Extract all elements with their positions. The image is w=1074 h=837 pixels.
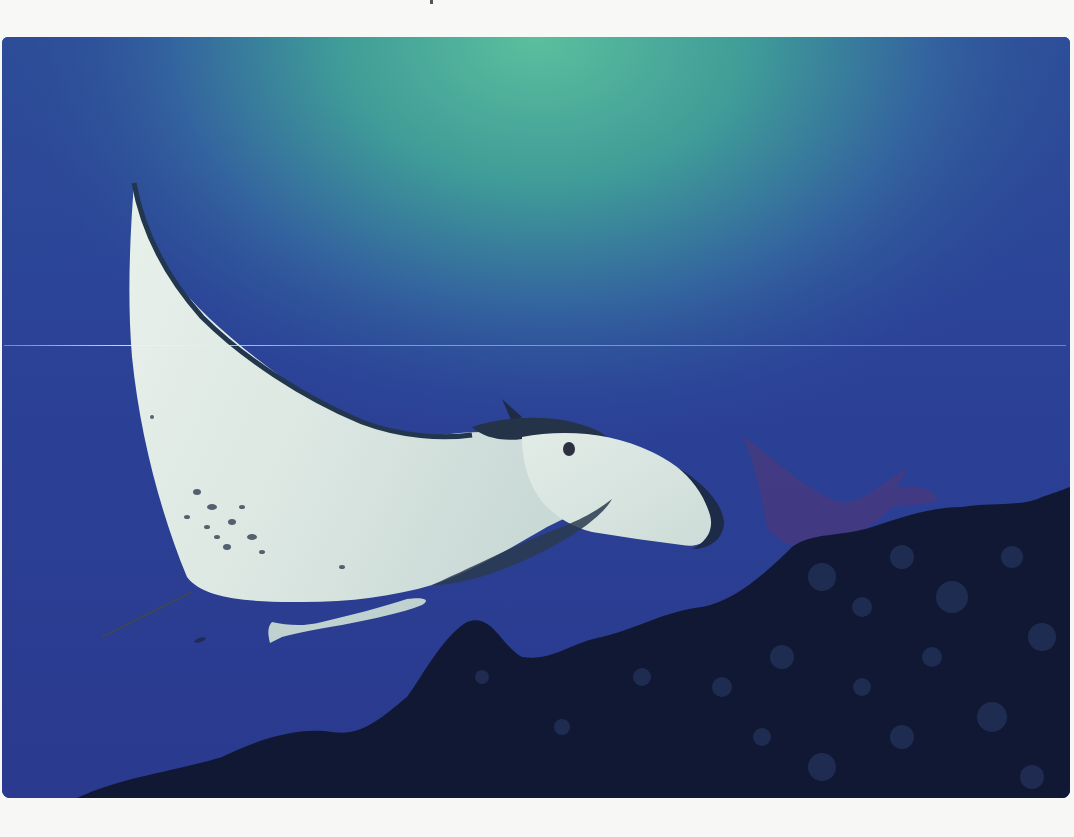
manta-eye bbox=[563, 442, 575, 456]
page-margin-bottom bbox=[0, 798, 1074, 837]
print-mark bbox=[430, 0, 433, 4]
scan-artifact-line bbox=[4, 345, 1066, 346]
manta-ray-photo bbox=[2, 37, 1070, 798]
page-margin-top bbox=[0, 0, 1074, 37]
